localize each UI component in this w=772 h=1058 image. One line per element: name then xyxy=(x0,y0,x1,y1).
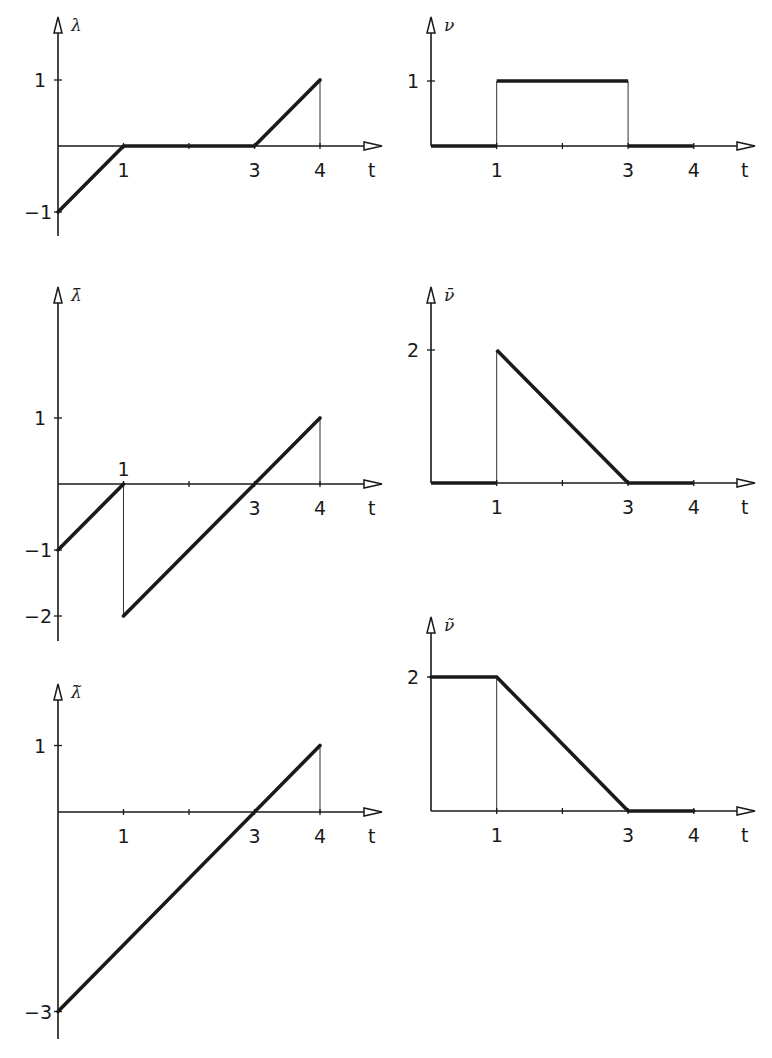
x-tick-label: 3 xyxy=(249,159,261,181)
x-tick-label: 4 xyxy=(314,825,326,847)
data-line xyxy=(431,677,694,811)
x-axis-label: t xyxy=(368,497,375,519)
x-tick-label: 1 xyxy=(118,458,130,480)
x-axis-label: t xyxy=(741,824,748,846)
chart-lambda-tilde: λ̃t1341−3 xyxy=(24,682,382,1039)
chart-lambda-bar: λ̄t1341−1−2 xyxy=(24,285,382,641)
y-axis-label: ν̃ xyxy=(444,615,454,635)
y-axis-label: ν̄ xyxy=(444,285,454,305)
x-axis-arrow-icon xyxy=(737,807,755,815)
y-axis-label: λ xyxy=(70,15,82,35)
x-axis-arrow-icon xyxy=(737,479,755,487)
x-axis-label: t xyxy=(368,159,375,181)
y-tick-label: −3 xyxy=(24,1001,52,1023)
chart-nu-bar: ν̄t1342 xyxy=(407,285,755,518)
x-tick-label: 4 xyxy=(688,824,700,846)
x-tick-label: 4 xyxy=(314,497,326,519)
x-axis-arrow-icon xyxy=(364,808,382,816)
y-tick-label: 2 xyxy=(407,666,419,688)
chart-lambda: λt1341−1 xyxy=(24,15,382,236)
x-axis-arrow-icon xyxy=(364,142,382,150)
x-axis-arrow-icon xyxy=(737,142,755,150)
y-tick-label: 1 xyxy=(34,407,46,429)
x-tick-label: 4 xyxy=(688,496,700,518)
x-axis-label: t xyxy=(741,159,748,181)
x-axis-label: t xyxy=(368,825,375,847)
x-axis-label: t xyxy=(741,496,748,518)
data-line xyxy=(58,484,124,550)
y-tick-label: 1 xyxy=(34,69,46,91)
data-line xyxy=(58,746,320,1012)
x-tick-label: 1 xyxy=(118,159,130,181)
x-tick-label: 4 xyxy=(688,159,700,181)
x-tick-label: 1 xyxy=(491,824,503,846)
chart-nu: νt1341 xyxy=(407,15,755,181)
y-tick-label: 1 xyxy=(34,735,46,757)
y-axis-arrow-icon xyxy=(54,17,62,33)
x-tick-label: 1 xyxy=(491,159,503,181)
x-tick-label: 3 xyxy=(249,825,261,847)
chart-nu-tilde: ν̃t1342 xyxy=(407,615,755,846)
y-axis-arrow-icon xyxy=(427,617,435,633)
x-axis-arrow-icon xyxy=(364,480,382,488)
y-tick-label: −1 xyxy=(24,201,52,223)
y-axis-label: λ̄ xyxy=(70,285,82,305)
x-tick-label: 3 xyxy=(622,824,634,846)
y-axis-arrow-icon xyxy=(54,287,62,303)
x-tick-label: 3 xyxy=(622,496,634,518)
y-tick-label: 2 xyxy=(407,339,419,361)
y-tick-label: 1 xyxy=(407,70,419,92)
y-axis-label: λ̃ xyxy=(70,682,82,702)
y-axis-arrow-icon xyxy=(427,17,435,33)
data-line xyxy=(497,350,694,483)
y-tick-label: −1 xyxy=(24,539,52,561)
x-tick-label: 1 xyxy=(118,825,130,847)
figure: λt1341−1 νt1341 λ̄t1341−1−2 ν̄t1342 λ̃t1… xyxy=(0,0,772,1058)
y-axis-arrow-icon xyxy=(54,684,62,700)
x-tick-label: 1 xyxy=(491,496,503,518)
x-tick-label: 3 xyxy=(622,159,634,181)
x-tick-label: 4 xyxy=(314,159,326,181)
y-axis-label: ν xyxy=(444,15,454,35)
y-tick-label: −2 xyxy=(24,605,52,627)
y-axis-arrow-icon xyxy=(427,287,435,303)
x-tick-label: 3 xyxy=(249,497,261,519)
data-line xyxy=(124,418,321,616)
